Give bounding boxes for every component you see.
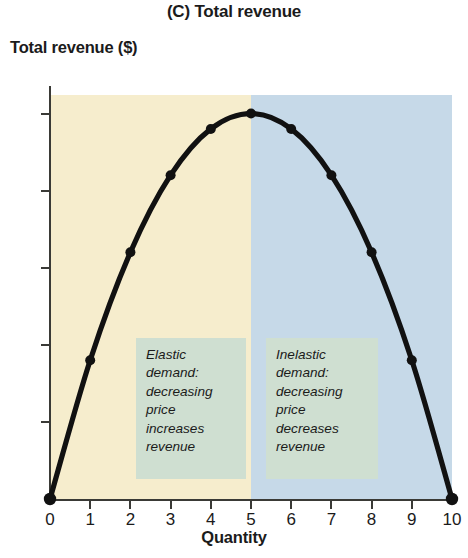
- y-axis-tick: [41, 344, 50, 346]
- data-point: [166, 170, 176, 180]
- x-axis-tick-label: 6: [276, 510, 306, 530]
- y-axis-tick: [41, 113, 50, 115]
- x-axis-tick: [411, 500, 413, 509]
- data-point: [367, 247, 377, 257]
- x-axis-tick-label: 3: [156, 510, 186, 530]
- x-axis-tick-label: 1: [75, 510, 105, 530]
- annotation-elastic: Elastic demand: decreasing price increas…: [136, 338, 246, 479]
- annotation-inelastic: Inelastic demand: decreasing price decre…: [266, 338, 378, 479]
- data-point: [407, 355, 417, 365]
- x-axis-tick: [330, 500, 332, 509]
- data-point: [446, 493, 458, 505]
- x-axis-tick: [250, 500, 252, 509]
- data-point: [246, 109, 256, 119]
- data-point: [125, 247, 135, 257]
- data-point: [286, 124, 296, 134]
- data-point: [206, 124, 216, 134]
- x-axis-title: Quantity: [0, 528, 468, 547]
- x-axis-tick: [170, 500, 172, 509]
- total-revenue-figure: (C) Total revenue Total revenue ($) 0255…: [0, 0, 468, 558]
- chart-title: (C) Total revenue: [0, 2, 468, 22]
- y-axis-tick: [41, 190, 50, 192]
- x-axis-tick-label: 8: [357, 510, 387, 530]
- total-revenue-curve: [50, 86, 452, 500]
- x-axis-tick: [371, 500, 373, 509]
- x-axis-tick-label: 0: [35, 510, 65, 530]
- x-axis-tick-label: 7: [316, 510, 346, 530]
- x-axis-tick-label: 2: [115, 510, 145, 530]
- x-axis-tick: [89, 500, 91, 509]
- plot-area: 0255075100125 012345678910 Elastic deman…: [50, 86, 452, 500]
- x-axis-tick-label: 10: [437, 510, 467, 530]
- x-axis-tick-label: 9: [397, 510, 427, 530]
- data-point: [44, 493, 56, 505]
- data-point: [85, 355, 95, 365]
- x-axis-tick: [210, 500, 212, 509]
- x-axis-tick-label: 5: [236, 510, 266, 530]
- y-axis-tick: [41, 421, 50, 423]
- y-axis-tick: [41, 267, 50, 269]
- x-axis-tick: [129, 500, 131, 509]
- x-axis-tick: [290, 500, 292, 509]
- data-point: [326, 170, 336, 180]
- x-axis-tick-label: 4: [196, 510, 226, 530]
- y-axis-title: Total revenue ($): [10, 38, 137, 57]
